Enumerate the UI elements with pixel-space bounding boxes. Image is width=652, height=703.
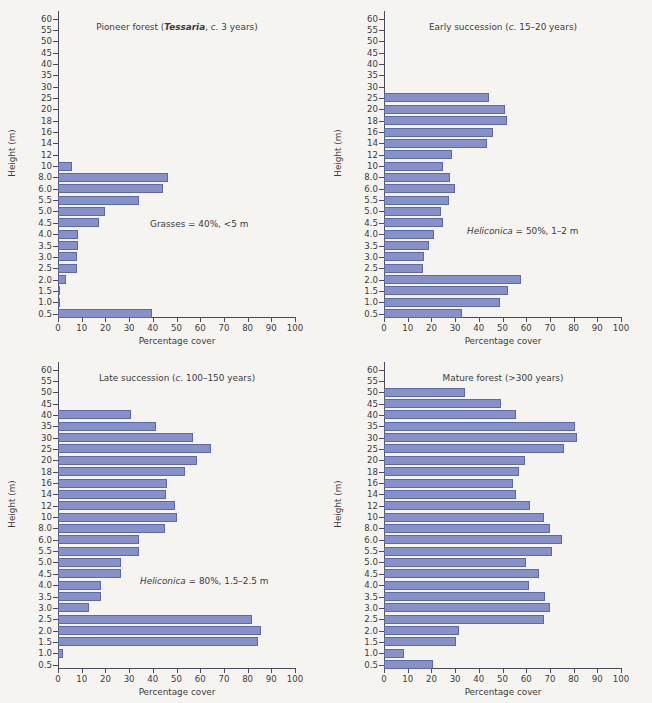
y-tick-label: 6.0: [342, 185, 378, 193]
y-tick-label: 5.5: [342, 196, 378, 204]
x-tick-label: 50: [165, 674, 189, 684]
y-tick-label: 55: [342, 26, 378, 34]
x-tick-label: 80: [236, 674, 260, 684]
y-tick-label: 20: [342, 456, 378, 464]
x-tick-label: 100: [283, 674, 307, 684]
y-tick-label: 18: [16, 468, 52, 476]
bar: [384, 581, 529, 590]
bar: [384, 241, 429, 250]
y-tick-label: 16: [342, 128, 378, 136]
y-tick-mark: [379, 30, 384, 31]
bar: [58, 410, 131, 419]
x-tick-label: 70: [538, 323, 562, 333]
bar: [384, 467, 519, 476]
x-tick-label: 80: [562, 323, 586, 333]
y-tick-label: 8.0: [16, 173, 52, 181]
bar: [384, 150, 452, 159]
x-tick-mark: [248, 669, 249, 673]
x-tick-label: 90: [259, 323, 283, 333]
x-tick-mark: [295, 669, 296, 673]
panel-title-bottom-right: Mature forest (>300 years): [384, 373, 622, 383]
bar: [384, 479, 513, 488]
bar: [58, 252, 77, 261]
x-tick-mark: [621, 669, 622, 673]
y-tick-label: 1.0: [16, 298, 52, 306]
y-tick-label: 5.0: [16, 207, 52, 215]
x-tick-label: 40: [467, 323, 491, 333]
bar: [384, 218, 443, 227]
y-tick-mark: [53, 19, 58, 20]
y-tick-label: 30: [16, 434, 52, 442]
bar: [58, 422, 156, 431]
y-tick-mark: [379, 41, 384, 42]
x-tick-mark: [384, 318, 385, 322]
y-tick-label: 3.5: [342, 242, 378, 250]
y-tick-label: 2.5: [342, 615, 378, 623]
y-tick-label: 12: [16, 502, 52, 510]
x-axis-title: Percentage cover: [58, 687, 296, 697]
bar: [58, 184, 163, 193]
y-tick-label: 35: [16, 71, 52, 79]
y-tick-label: 2.0: [16, 276, 52, 284]
y-tick-label: 4.5: [342, 570, 378, 578]
x-tick-mark: [431, 318, 432, 322]
bar: [58, 569, 121, 578]
y-tick-label: 1.5: [342, 638, 378, 646]
x-tick-label: 10: [396, 323, 420, 333]
panel-title-bottom-left-part-2: 100–150 years): [183, 373, 255, 383]
y-tick-mark: [53, 121, 58, 122]
y-tick-label: 3.5: [16, 593, 52, 601]
x-tick-mark: [129, 318, 130, 322]
y-tick-label: 10: [342, 513, 378, 521]
bar: [384, 196, 449, 205]
y-tick-label: 25: [16, 445, 52, 453]
y-tick-label: 18: [342, 117, 378, 125]
x-tick-label: 0: [46, 323, 70, 333]
bar: [384, 264, 423, 273]
x-tick-label: 20: [419, 323, 443, 333]
x-tick-mark: [479, 318, 480, 322]
bar: [58, 309, 152, 318]
y-tick-label: 30: [342, 83, 378, 91]
y-tick-label: 40: [16, 60, 52, 68]
chart-panel-bottom-left: Late succession (c. 100–150 years)605550…: [0, 351, 326, 702]
y-tick-mark: [53, 75, 58, 76]
bar: [58, 241, 78, 250]
x-tick-mark: [224, 669, 225, 673]
y-tick-mark: [53, 404, 58, 405]
y-tick-label: 40: [342, 60, 378, 68]
y-tick-label: 8.0: [16, 524, 52, 532]
y-tick-mark: [53, 132, 58, 133]
x-tick-label: 90: [259, 674, 283, 684]
bar: [58, 162, 72, 171]
y-tick-label: 10: [16, 513, 52, 521]
x-tick-mark: [177, 669, 178, 673]
bar: [384, 309, 462, 318]
bar: [58, 535, 139, 544]
y-tick-mark: [53, 87, 58, 88]
y-tick-mark: [53, 109, 58, 110]
bar: [58, 479, 167, 488]
x-tick-label: 30: [117, 674, 141, 684]
y-tick-label: 5.5: [16, 547, 52, 555]
bar: [58, 218, 99, 227]
bar: [58, 275, 66, 284]
panel-title-top-right-part-0: Early succession (: [429, 22, 509, 32]
y-tick-label: 3.0: [16, 604, 52, 612]
y-tick-mark: [53, 41, 58, 42]
x-tick-mark: [153, 318, 154, 322]
x-tick-label: 60: [188, 674, 212, 684]
x-tick-mark: [408, 669, 409, 673]
y-tick-mark: [53, 30, 58, 31]
y-tick-label: 25: [342, 445, 378, 453]
x-tick-mark: [550, 669, 551, 673]
y-tick-label: 3.0: [16, 253, 52, 261]
y-tick-mark: [53, 665, 58, 666]
panel-title-top-right-part-2: 15–20 years): [516, 22, 577, 32]
bar: [384, 410, 516, 419]
x-tick-label: 60: [188, 323, 212, 333]
y-tick-label: 4.0: [342, 230, 378, 238]
y-tick-label: 4.0: [16, 230, 52, 238]
y-tick-label: 12: [342, 502, 378, 510]
y-tick-label: 55: [16, 377, 52, 385]
